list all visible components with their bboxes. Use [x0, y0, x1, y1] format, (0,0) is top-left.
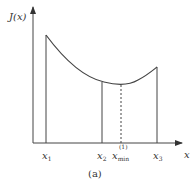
caption: (a) — [88, 168, 102, 179]
tick-xmin-superscript: (1) — [119, 144, 128, 150]
cost-curve — [46, 35, 157, 84]
tick-x3: x3 — [153, 151, 162, 162]
x-axis-label: x — [184, 150, 190, 160]
y-axis-label: J(x) — [9, 12, 26, 22]
tick-x1: x1 — [42, 151, 51, 162]
tick-xmin: xmin — [112, 151, 129, 162]
diagram: J(x) x x1 x2 (1) xmin x3 (a) — [0, 0, 195, 189]
tick-x2: x2 — [97, 151, 106, 162]
